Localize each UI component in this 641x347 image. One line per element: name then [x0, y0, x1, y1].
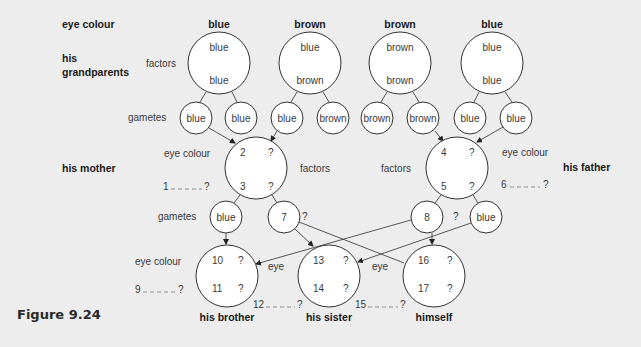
mother-blank-q: ?: [204, 181, 210, 192]
mother-top-right: ?: [268, 147, 274, 158]
gp1-gamete-1: blue: [187, 113, 206, 124]
gp4-gamete-1: blue: [461, 113, 480, 124]
himself-blank-q: ?: [400, 299, 406, 310]
gp1-eye-colour: blue: [208, 18, 230, 30]
row-label-eye-colour: eye colour: [62, 18, 115, 30]
brother-blank-num: 9: [135, 284, 141, 295]
father-top-right: ?: [469, 147, 475, 158]
gp3-eye-colour: brown: [384, 18, 416, 30]
label-gametes-top: gametes: [128, 112, 166, 123]
gp4-eye-colour: blue: [481, 18, 503, 30]
label-eye-2: eye: [372, 261, 389, 272]
mother-gamete-1: blue: [217, 212, 236, 223]
mother-blank-num: 1: [163, 181, 169, 192]
mother-q2: 2: [240, 147, 246, 158]
gp2-factor-top: blue: [301, 42, 320, 53]
sister-blank-num: 12: [253, 299, 265, 310]
gp1-factor-bottom: blue: [210, 75, 229, 86]
gp1-gamete-2: blue: [232, 113, 251, 124]
mother-factors-label: factors: [300, 163, 330, 174]
father-blank-q: ?: [543, 179, 549, 190]
father-q4: 4: [441, 147, 447, 158]
label-his-brother: his brother: [200, 311, 255, 323]
label-eye-1: eye: [268, 261, 285, 272]
mother-gametes-label: gametes: [158, 211, 196, 222]
himself-blank-num: 15: [355, 299, 367, 310]
brother-q11: 11: [212, 283, 223, 294]
label-himself: himself: [416, 311, 453, 323]
grandparent-4: blue blue: [461, 32, 523, 94]
grandparent-1: blue blue: [188, 32, 250, 94]
gp2-eye-colour: brown: [294, 18, 326, 30]
sister-top-right: ?: [343, 255, 349, 266]
figure-caption: Figure 9.24: [17, 307, 101, 322]
children-eye-colour-label: eye colour: [135, 256, 182, 267]
himself-q16: 16: [418, 255, 430, 266]
gp4-gamete-2: blue: [507, 113, 526, 124]
brother-top-right: ?: [238, 255, 244, 266]
father-gamete-q: ?: [453, 211, 459, 222]
brother-bottom-right: ?: [238, 283, 244, 294]
gp2-gamete-2: brown: [319, 113, 346, 124]
sister-blank-q: ?: [297, 299, 303, 310]
child-brother: 10 ? 11 ? his brother: [196, 245, 258, 323]
label-his-sister: his sister: [306, 311, 352, 323]
gp3-gamete-1: brown: [363, 113, 390, 124]
grandparent-2: blue brown: [279, 32, 341, 94]
mother-gamete-q: ?: [302, 211, 308, 222]
row-label-his: his: [62, 52, 77, 64]
gp-gametes: blue blue blue brown brown brown blue bl…: [180, 102, 532, 134]
gp3-factor-top: brown: [386, 42, 413, 53]
himself-top-right: ?: [447, 255, 453, 266]
child-himself: 16 ? 17 ? himself: [403, 245, 465, 323]
label-factors-grandparents: factors: [146, 58, 176, 69]
mother-q3: 3: [240, 181, 246, 192]
inheritance-diagram: eye colour his grandparents factors game…: [0, 0, 641, 347]
father-gamete-q8: 8: [424, 212, 430, 223]
gp3-factor-bottom: brown: [386, 75, 413, 86]
brother-q10: 10: [212, 255, 224, 266]
gp2-gamete-1: blue: [278, 113, 297, 124]
himself-bottom-right: ?: [447, 283, 453, 294]
father-bottom-right: ?: [469, 181, 475, 192]
father-circle: 4 ? 5 ?: [426, 137, 488, 199]
father-eye-colour-label: eye colour: [502, 147, 549, 158]
grandparent-3: brown brown: [369, 32, 431, 94]
sister-q13: 13: [313, 255, 325, 266]
mother-bottom-right: ?: [268, 181, 274, 192]
mother-eye-colour-label: eye colour: [164, 148, 211, 159]
label-his-mother: his mother: [62, 162, 116, 174]
gp3-gamete-2: brown: [409, 113, 436, 124]
father-factors-label: factors: [381, 163, 411, 174]
sister-bottom-right: ?: [343, 283, 349, 294]
gp4-factor-bottom: blue: [483, 75, 502, 86]
brother-blank-q: ?: [178, 284, 184, 295]
sister-q14: 14: [313, 283, 325, 294]
father-gamete-2: blue: [477, 212, 496, 223]
gp1-factor-top: blue: [210, 42, 229, 53]
mother-circle: 2 ? 3 ?: [225, 137, 287, 199]
child-sister: 13 ? 14 ? his sister: [298, 245, 360, 323]
mother-gamete-q7: 7: [281, 212, 287, 223]
himself-q17: 17: [418, 283, 430, 294]
gp4-factor-top: blue: [483, 42, 502, 53]
gp2-factor-bottom: brown: [296, 75, 323, 86]
row-label-grandparents: grandparents: [62, 66, 129, 78]
father-blank-num: 6: [501, 179, 507, 190]
father-q5: 5: [441, 181, 447, 192]
label-his-father: his father: [563, 161, 610, 173]
